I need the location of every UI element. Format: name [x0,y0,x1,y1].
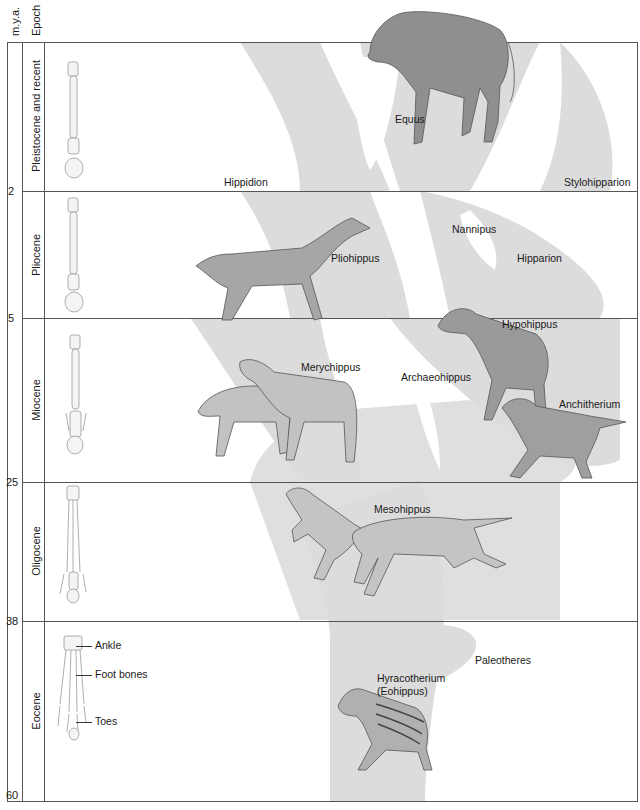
foot-bone-eocene [52,634,92,742]
epoch-label: Eocene [30,668,42,754]
genus-label-paleotheres: Paleotheres [475,654,531,666]
boundary-25mya [22,482,638,483]
mya-value: 2 [8,185,14,197]
genus-label-eohippus: (Eohippus) [377,685,428,697]
foot-bone-miocene [62,333,90,457]
genus-label-pliohippus: Pliohippus [331,252,379,264]
genus-label-anchitherium: Anchitherium [559,398,620,410]
mya-value: 38 [6,615,18,627]
genus-label-mesohippus: Mesohippus [374,503,431,515]
foot-bone-pliocene [62,196,86,316]
epoch-label: Miocene [30,357,42,443]
genus-label-merychippus: Merychippus [301,361,361,373]
epoch-column-divider [44,42,45,802]
ankle-label: Ankle [95,639,121,651]
boundary-2mya [22,191,638,192]
genus-label-nannipus: Nannipus [452,223,496,235]
ankle-leader-line [76,646,92,647]
foot-bone-oligocene [58,484,90,604]
mya-column-divider [22,42,23,802]
genus-label-hipparion: Hipparion [517,252,562,264]
boundary-38mya [22,621,638,622]
equus-illustration [360,2,520,150]
genus-label-hypohippus: Hypohippus [502,318,557,330]
genus-label-archaeohippus: Archaeohippus [401,371,471,383]
mya-header: m.y.a. [9,7,21,36]
mya-value: 5 [8,312,14,324]
mya-value: 25 [6,476,18,488]
epoch-label: Oligocene [30,508,42,594]
epoch-label: Pliocene [30,212,42,298]
toes-leader-line [76,722,92,723]
foot-bone-pleistocene [62,60,86,182]
genus-label-equus: Equus [395,113,425,125]
foot-bones-leader-line [76,675,92,676]
mesohippus-illustration [284,484,516,602]
genus-label-hippidion: Hippidion [224,176,268,188]
epoch-label: Pleistocene and recent [30,53,42,179]
genus-label-stylohipparion: Stylohipparion [564,176,631,188]
toes-label: Toes [95,715,117,727]
foot-bones-label: Foot bones [95,668,148,680]
mya-value: 60 [6,789,18,801]
genus-label-hyracotherium: Hyracotherium [377,672,445,684]
epoch-header: Epoch [30,5,42,36]
pliohippus-illustration [192,208,372,326]
